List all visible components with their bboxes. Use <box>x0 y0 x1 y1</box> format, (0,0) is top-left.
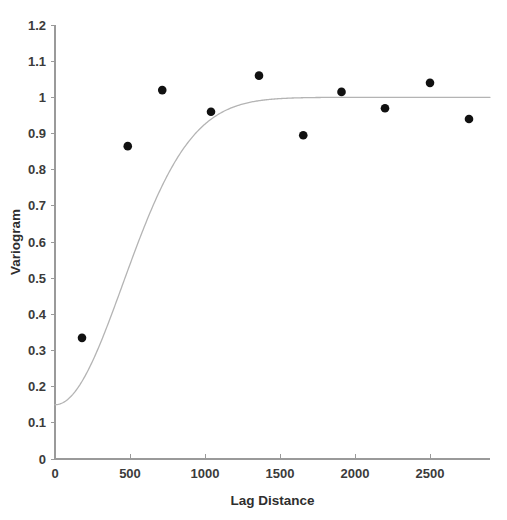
chart-canvas: 00.10.20.30.40.50.60.70.80.911.11.2 0500… <box>0 0 507 520</box>
data-point <box>381 104 390 113</box>
data-point <box>158 86 167 95</box>
x-axis-title: Lag Distance <box>230 493 315 508</box>
x-tick-label: 500 <box>119 466 141 481</box>
y-tick-label: 1 <box>39 90 46 105</box>
y-axis-title: Variogram <box>8 209 23 275</box>
y-tick-label: 0.6 <box>28 235 46 250</box>
x-tick-label: 2000 <box>341 466 370 481</box>
data-points-group <box>78 71 474 342</box>
x-tick-label: 1500 <box>266 466 295 481</box>
x-tick-label: 0 <box>51 466 58 481</box>
y-axis-ticks: 00.10.20.30.40.50.60.70.80.911.11.2 <box>28 18 55 467</box>
y-tick-label: 1.1 <box>28 54 46 69</box>
y-tick-label: 0.2 <box>28 379 46 394</box>
data-point <box>123 142 132 151</box>
data-point <box>207 108 216 117</box>
x-tick-label: 1000 <box>191 466 220 481</box>
fitted-model-curve <box>55 97 490 404</box>
data-point <box>78 334 87 343</box>
y-tick-label: 0.3 <box>28 343 46 358</box>
axes-group <box>55 25 490 459</box>
variogram-chart: 00.10.20.30.40.50.60.70.80.911.11.2 0500… <box>0 0 507 520</box>
y-tick-label: 0.8 <box>28 162 46 177</box>
y-tick-label: 0.7 <box>28 198 46 213</box>
y-tick-label: 0 <box>39 452 46 467</box>
y-tick-label: 0.5 <box>28 271 46 286</box>
x-axis-ticks: 05001000150020002500 <box>51 454 444 481</box>
data-point <box>299 131 308 140</box>
y-tick-label: 0.1 <box>28 415 46 430</box>
y-tick-label: 0.9 <box>28 126 46 141</box>
data-point <box>465 115 474 124</box>
data-point <box>337 88 346 97</box>
data-point <box>426 79 435 88</box>
y-tick-label: 0.4 <box>28 307 47 322</box>
data-point <box>255 71 264 80</box>
x-tick-label: 2500 <box>416 466 445 481</box>
model-curve-path <box>55 97 490 404</box>
y-tick-label: 1.2 <box>28 18 46 33</box>
